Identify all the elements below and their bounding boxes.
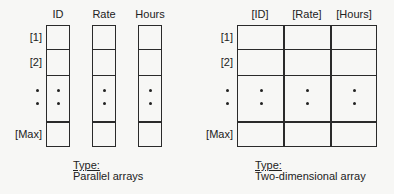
grid-col-divider <box>330 25 332 147</box>
array-cell <box>138 75 162 123</box>
column-header-id: ID <box>46 8 70 20</box>
ellipsis-dot <box>226 89 229 92</box>
ellipsis-dot <box>353 102 356 105</box>
ellipsis-dot <box>103 102 106 105</box>
ellipsis-dot <box>306 89 309 92</box>
ellipsis-dot <box>36 89 39 92</box>
grid-frame <box>237 25 377 147</box>
ellipsis-dot <box>57 89 60 92</box>
array-cell <box>46 75 70 123</box>
ellipsis-dot <box>103 89 106 92</box>
type-value: Two-dimensional array <box>255 170 366 182</box>
ellipsis-dot <box>260 102 263 105</box>
row-label-max: [Max] <box>0 128 42 140</box>
ellipsis-dot <box>149 89 152 92</box>
row-label-1: [1] <box>195 31 233 43</box>
column-header-rate: [Rate] <box>285 8 329 20</box>
array-cell <box>92 25 116 50</box>
array-cell <box>46 25 70 50</box>
ellipsis-dot <box>36 102 39 105</box>
row-label-2: [2] <box>0 56 42 68</box>
grid-col-divider <box>283 25 285 147</box>
array-cell <box>46 49 70 76</box>
ellipsis-dot <box>57 102 60 105</box>
row-label-max: [Max] <box>195 128 233 140</box>
array-cell <box>92 75 116 123</box>
ellipsis-dot <box>353 89 356 92</box>
type-value: Parallel arrays <box>73 170 143 182</box>
ellipsis-dot <box>226 102 229 105</box>
array-cell <box>138 49 162 76</box>
ellipsis-dot <box>306 102 309 105</box>
ellipsis-dot <box>260 89 263 92</box>
row-label-2: [2] <box>195 56 233 68</box>
array-cell <box>138 25 162 50</box>
grid-row-divider <box>237 75 377 77</box>
grid-row-divider <box>237 49 377 51</box>
array-cell <box>92 121 116 147</box>
column-header-id: [ID] <box>243 8 277 20</box>
row-label-1: [1] <box>0 31 42 43</box>
column-header-hours: Hours <box>132 8 168 20</box>
array-cell <box>138 121 162 147</box>
column-header-hours: [Hours] <box>330 8 378 20</box>
ellipsis-dot <box>149 102 152 105</box>
array-cell <box>92 49 116 76</box>
array-cell <box>46 121 70 147</box>
column-header-rate: Rate <box>88 8 120 20</box>
grid-row-divider <box>237 121 377 123</box>
